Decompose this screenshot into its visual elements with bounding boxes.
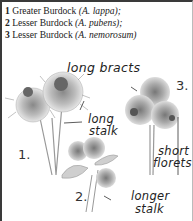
plant-number-1: 1. [18,147,30,162]
label-longer-stalk-line2: stalk [135,203,164,215]
plant-number-2: 2. [75,189,87,204]
label-long-stalk-line2: stalk [89,125,118,137]
label-short-florets-line2: florets [153,157,192,169]
label-longer-stalk-line1: longer [131,190,169,202]
burdock-illustration [0,0,193,221]
label-long-bracts: long bracts [67,62,140,74]
plant-number-3: 3. [176,78,188,93]
plant-2-lesser-burdock [62,137,118,212]
